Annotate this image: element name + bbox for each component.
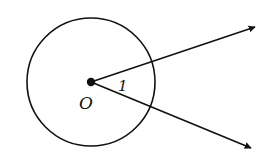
lower-ray — [91, 82, 251, 148]
upper-ray — [91, 27, 255, 82]
center-label: O — [79, 93, 93, 113]
angle-label: 1 — [118, 77, 128, 95]
geometry-diagram: O 1 — [0, 0, 268, 161]
center-point — [87, 78, 95, 86]
